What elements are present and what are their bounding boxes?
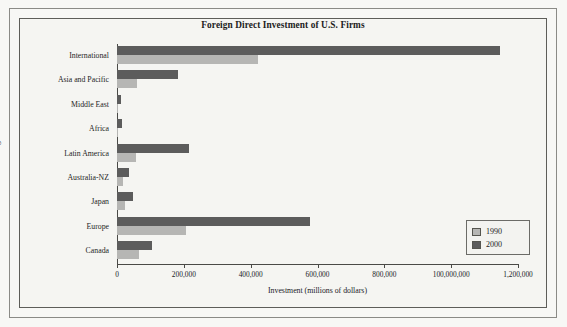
- x-tick-1: [184, 264, 185, 268]
- legend-label-2000: 2000: [486, 240, 502, 249]
- chart-legend: 1990 2000: [466, 220, 530, 255]
- y-category-label-canada: Canada: [86, 246, 109, 255]
- x-tick-label-6: 1,200,000: [503, 270, 533, 279]
- bar-1990-australia-nz: [117, 177, 123, 186]
- x-tick-label-1: 200,000: [172, 270, 196, 279]
- bar-2000-africa: [117, 119, 122, 128]
- bar-1990-africa: [117, 128, 118, 137]
- legend-item-2000: 2000: [472, 238, 529, 251]
- x-tick-6: [518, 264, 519, 268]
- x-tick-label-5: 100,000,000: [433, 270, 470, 279]
- y-category-label-australia-nz: Australia-NZ: [67, 173, 109, 182]
- bar-1990-latin-america: [117, 153, 136, 162]
- y-category-label-europe: Europe: [86, 222, 109, 231]
- bar-2000-japan: [117, 192, 133, 201]
- bar-1990-international: [117, 55, 258, 64]
- y-category-label-middle-east: Middle East: [71, 100, 109, 109]
- x-tick-0: [117, 264, 118, 268]
- bar-2000-asia-and-pacific: [117, 70, 178, 79]
- x-tick-label-4: 800,000: [372, 270, 396, 279]
- legend-swatch-2000: [472, 241, 481, 249]
- bar-2000-latin-america: [117, 144, 189, 153]
- x-tick-2: [251, 264, 252, 268]
- y-category-label-africa: Africa: [89, 124, 109, 133]
- x-tick-5: [451, 264, 452, 268]
- bar-2000-canada: [117, 241, 152, 250]
- bar-1990-middle-east: [117, 104, 118, 113]
- y-category-label-latin-america: Latin America: [64, 149, 109, 158]
- chart-title: Foreign Direct Investment of U.S. Firms: [20, 20, 546, 30]
- legend-label-1990: 1990: [486, 227, 502, 236]
- bar-2000-middle-east: [117, 95, 121, 104]
- bar-2000-international: [117, 46, 500, 55]
- x-tick-3: [318, 264, 319, 268]
- bar-1990-japan: [117, 201, 125, 210]
- legend-swatch-1990: [472, 228, 481, 236]
- y-category-label-asia-and-pacific: Asia and Pacific: [58, 75, 109, 84]
- bar-2000-australia-nz: [117, 168, 129, 177]
- bar-1990-canada: [117, 250, 139, 259]
- legend-item-1990: 1990: [472, 225, 529, 238]
- x-tick-label-2: 400,000: [239, 270, 263, 279]
- x-tick-4: [384, 264, 385, 268]
- bar-2000-europe: [117, 217, 310, 226]
- chart-figure: Foreign Direct Investment of U.S. Firms …: [0, 0, 567, 327]
- x-axis-label: Investment (millions of dollars): [117, 286, 518, 295]
- bar-1990-asia-and-pacific: [117, 79, 137, 88]
- chart-plot-area: [117, 44, 518, 264]
- x-tick-label-3: 600,000: [305, 270, 329, 279]
- y-axis-category-labels: InternationalAsia and PacificMiddle East…: [0, 44, 113, 264]
- x-tick-label-0: 0: [115, 270, 119, 279]
- y-category-label-international: International: [69, 51, 109, 60]
- bar-1990-europe: [117, 226, 186, 235]
- y-category-label-japan: Japan: [91, 197, 109, 206]
